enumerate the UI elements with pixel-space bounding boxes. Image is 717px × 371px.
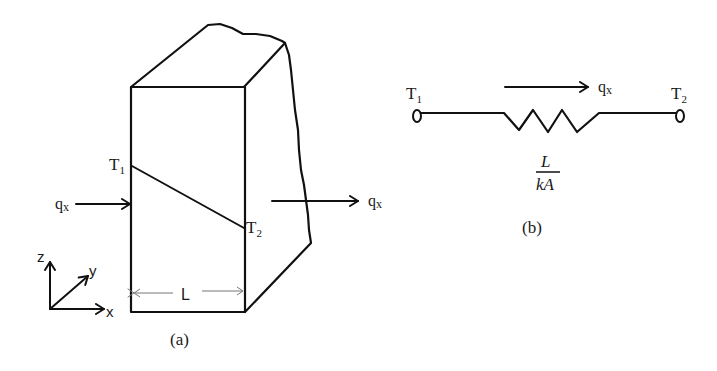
diagram-canvas: T1 T2 qx qx L z y x (a) qx T1 bbox=[0, 0, 717, 371]
slab-front-face bbox=[131, 87, 245, 312]
label-t2-b: T2 bbox=[671, 84, 687, 105]
slab-top-face bbox=[131, 24, 285, 87]
y-axis-arrow bbox=[50, 276, 88, 309]
length-dimension: L bbox=[134, 286, 243, 303]
slab-rough-edge bbox=[245, 43, 311, 312]
coordinate-axes: z y x bbox=[37, 248, 114, 320]
label-z-axis: z bbox=[37, 248, 45, 265]
label-qx-out: qx bbox=[368, 192, 382, 211]
temperature-profile-line bbox=[132, 166, 244, 228]
terminal-t2 bbox=[676, 110, 684, 122]
label-t1-b: T1 bbox=[406, 84, 422, 105]
fraction-denominator: kA bbox=[536, 175, 555, 194]
slab-block bbox=[131, 24, 311, 312]
fraction-numerator: L bbox=[540, 152, 550, 171]
label-qx-b: qx bbox=[598, 78, 612, 97]
label-qx-in: qx bbox=[55, 195, 69, 214]
label-x-axis: x bbox=[106, 303, 114, 320]
label-t2-a: T2 bbox=[246, 218, 262, 239]
terminal-t1 bbox=[413, 110, 421, 122]
label-t1-a: T1 bbox=[109, 155, 125, 176]
resistor-wire bbox=[421, 110, 676, 132]
caption-b: (b) bbox=[522, 218, 542, 237]
resistance-fraction: L kA bbox=[536, 152, 560, 194]
label-length: L bbox=[181, 286, 190, 303]
thermal-circuit bbox=[413, 110, 684, 132]
label-y-axis: y bbox=[89, 262, 97, 279]
caption-a: (a) bbox=[170, 330, 189, 349]
